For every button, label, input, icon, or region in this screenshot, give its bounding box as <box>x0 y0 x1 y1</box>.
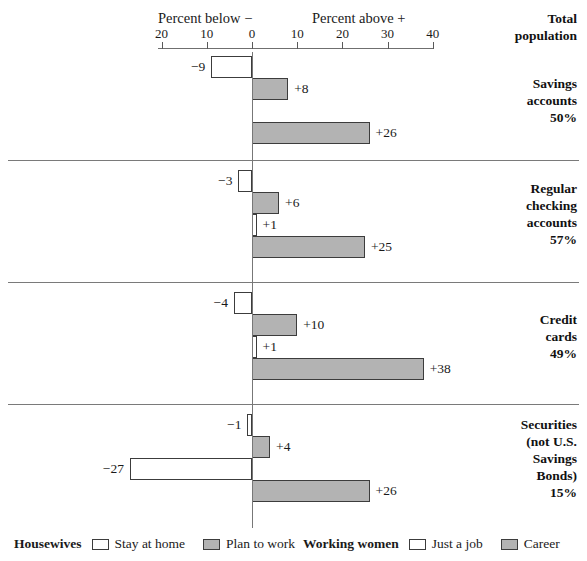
legend-swatch-career-icon <box>501 539 518 550</box>
axis-tick-label-0: 20 <box>150 26 174 42</box>
group-label-line-0-1: accounts <box>527 92 577 109</box>
total-population-header: Total population <box>515 10 577 44</box>
bar-value-label-0-3: +26 <box>376 122 397 144</box>
chart-group-3: −1+4−27+26Securities(not U.S.SavingsBond… <box>0 414 587 516</box>
axis-tick-mark-6 <box>433 42 434 49</box>
axis-tick-label-5: 30 <box>376 26 400 42</box>
bar-value-label-1-0: −3 <box>0 170 232 192</box>
legend-group-working-women: Working women Just a job Career <box>303 536 578 552</box>
group-label-0: Savingsaccounts50% <box>527 75 577 126</box>
chart-axis-header: Percent below − Percent above + 20100102… <box>0 0 587 52</box>
legend-label-career: Career <box>524 536 560 552</box>
group-label-line-0-2: 50% <box>527 109 577 126</box>
total-population-line-1: Total <box>515 10 577 27</box>
bar-value-label-3-2: −27 <box>0 458 124 480</box>
bar-value-label-1-2: +1 <box>263 214 277 236</box>
group-label-line-1-3: 57% <box>526 231 577 248</box>
bar-value-label-0-0: −9 <box>0 56 205 78</box>
axis-tick-label-1: 10 <box>195 26 219 42</box>
legend-label-just-a-job: Just a job <box>432 536 483 552</box>
axis-tick-mark-4 <box>342 42 343 49</box>
bar-value-label-2-3: +38 <box>430 358 451 380</box>
bar-1-0 <box>238 170 252 192</box>
bar-3-1 <box>252 436 270 458</box>
chart-group-2: −4+10+1+38Creditcards49% <box>0 292 587 394</box>
legend-label-stay-at-home: Stay at home <box>115 536 186 552</box>
bar-0-0 <box>211 56 252 78</box>
axis-tick-label-6: 40 <box>421 26 445 42</box>
chart-legend: Housewives Stay at home Plan to work Wor… <box>0 536 587 561</box>
group-label-3: Securities(not U.S.SavingsBonds)15% <box>521 416 577 501</box>
axis-tick-label-4: 20 <box>330 26 354 42</box>
axis-caption-above: Percent above + <box>312 10 406 27</box>
legend-working-women-title: Working women <box>303 536 399 552</box>
legend-group-housewives: Housewives Stay at home Plan to work <box>14 536 313 552</box>
group-label-line-3-0: Securities <box>521 416 577 433</box>
zero-axis-line <box>252 52 253 528</box>
legend-housewives-title: Housewives <box>14 536 82 552</box>
legend-swatch-just-a-job-icon <box>409 539 426 550</box>
axis-tick-label-3: 10 <box>285 26 309 42</box>
group-label-line-0-0: Savings <box>527 75 577 92</box>
bar-value-label-2-0: −4 <box>0 292 228 314</box>
chart-group-1: −3+6+1+25Regularcheckingaccounts57% <box>0 170 587 272</box>
bar-2-1 <box>252 314 297 336</box>
bar-value-label-1-1: +6 <box>285 192 299 214</box>
chart-plot-area: −9+8+26Savingsaccounts50%−3+6+1+25Regula… <box>0 52 587 532</box>
axis-line <box>158 48 433 49</box>
axis-tick-label-2: 0 <box>240 26 264 42</box>
legend-swatch-plan-to-work-icon <box>203 539 220 550</box>
group-label-1: Regularcheckingaccounts57% <box>526 180 577 248</box>
bar-value-label-1-3: +25 <box>371 236 392 258</box>
group-label-line-3-2: Savings <box>521 450 577 467</box>
bar-value-label-3-3: +26 <box>376 480 397 502</box>
bar-value-label-3-0: −1 <box>0 414 241 436</box>
bar-value-label-3-1: +4 <box>276 436 290 458</box>
bar-3-2 <box>130 458 252 480</box>
chart-group-0: −9+8+26Savingsaccounts50% <box>0 56 587 158</box>
group-label-2: Creditcards49% <box>540 311 577 362</box>
group-label-line-2-1: cards <box>540 328 577 345</box>
axis-tick-mark-3 <box>297 42 298 49</box>
bar-3-3 <box>252 480 370 502</box>
group-separator-2 <box>8 404 579 405</box>
axis-tick-mark-0 <box>162 42 163 49</box>
bar-0-1 <box>252 78 288 100</box>
group-label-line-3-1: (not U.S. <box>521 433 577 450</box>
group-label-line-1-0: Regular <box>526 180 577 197</box>
axis-tick-mark-5 <box>388 42 389 49</box>
group-label-line-1-2: accounts <box>526 214 577 231</box>
total-population-line-2: population <box>515 27 577 44</box>
group-label-line-2-0: Credit <box>540 311 577 328</box>
group-label-line-3-4: 15% <box>521 484 577 501</box>
group-label-line-3-3: Bonds) <box>521 467 577 484</box>
axis-caption-below: Percent below − <box>158 10 252 27</box>
group-separator-1 <box>8 282 579 283</box>
bar-value-label-0-1: +8 <box>294 78 308 100</box>
bar-1-3 <box>252 236 365 258</box>
axis-tick-mark-1 <box>207 42 208 49</box>
bar-2-3 <box>252 358 424 380</box>
bar-value-label-2-2: +1 <box>263 336 277 358</box>
bar-2-0 <box>234 292 252 314</box>
legend-swatch-stay-at-home-icon <box>92 539 109 550</box>
group-separator-0 <box>8 160 579 161</box>
axis-tick-mark-2 <box>252 42 253 49</box>
group-label-line-1-1: checking <box>526 197 577 214</box>
group-label-line-2-2: 49% <box>540 345 577 362</box>
legend-label-plan-to-work: Plan to work <box>226 536 295 552</box>
bar-value-label-2-1: +10 <box>303 314 324 336</box>
bar-1-1 <box>252 192 279 214</box>
bar-0-3 <box>252 122 370 144</box>
